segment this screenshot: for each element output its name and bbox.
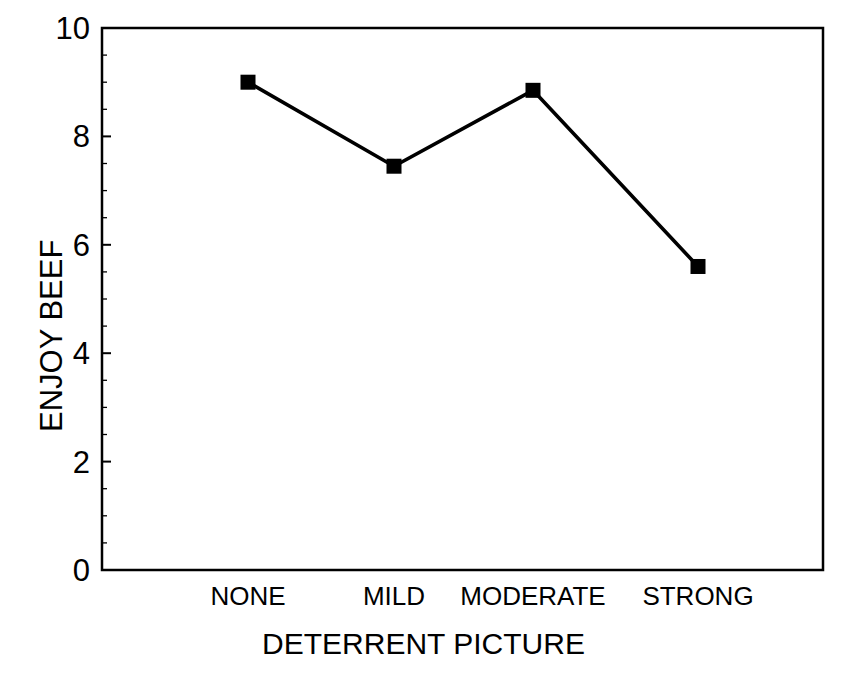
plot-area xyxy=(0,0,847,684)
data-markers xyxy=(241,75,706,274)
axis-frame xyxy=(102,28,823,570)
chart-figure: ENJOY BEEF 10 8 6 4 2 0 NONE MILD MODERA… xyxy=(0,0,847,684)
plot-border xyxy=(102,28,823,570)
data-point-marker xyxy=(241,75,256,90)
data-point-marker xyxy=(387,159,402,174)
data-line xyxy=(248,82,698,266)
data-point-marker xyxy=(691,259,706,274)
data-point-marker xyxy=(526,83,541,98)
